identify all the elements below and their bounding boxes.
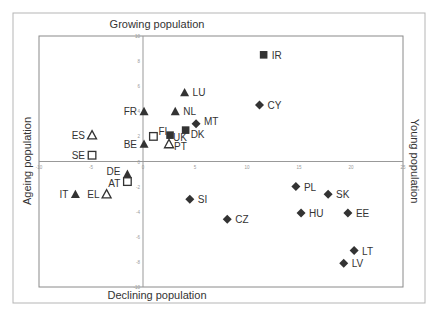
data-point-se: SE: [72, 150, 96, 161]
y-tick-label: -4: [136, 210, 140, 215]
point-label: HU: [309, 208, 323, 219]
label-right: Young population: [409, 119, 421, 204]
y-tick-label: -8: [136, 260, 140, 265]
label-top: Growing population: [110, 18, 205, 30]
square-marker-icon: [260, 51, 268, 59]
point-label: CY: [267, 100, 281, 111]
point-label: DK: [191, 129, 205, 140]
point-label: PL: [304, 182, 317, 193]
data-point-el: EL: [87, 189, 111, 200]
label-bottom: Declining population: [107, 289, 206, 301]
label-left: Ageing population: [21, 117, 33, 205]
point-label: MT: [204, 116, 218, 127]
x-tick-label: -10: [36, 165, 43, 170]
point-label: LT: [362, 246, 373, 257]
point-label: DE: [106, 166, 120, 177]
y-tick-label: -2: [136, 185, 140, 190]
scatter-chart: -10-50510152025-10-8-6-4-20246810 IRCYLU…: [0, 0, 438, 318]
square-marker-icon: [150, 133, 158, 141]
point-label: ES: [72, 130, 86, 141]
x-tick-label: 25: [400, 165, 406, 170]
point-label: SE: [72, 150, 86, 161]
point-label: EL: [87, 189, 100, 200]
x-tick-label: 15: [296, 165, 302, 170]
point-label: NL: [183, 106, 196, 117]
square-marker-icon: [88, 151, 96, 159]
x-tick-label: 20: [348, 165, 354, 170]
point-label: AT: [108, 178, 120, 189]
data-point-es: ES: [72, 130, 97, 141]
point-label: SI: [198, 194, 207, 205]
point-label: PT: [174, 141, 187, 152]
y-tick-label: 10: [135, 34, 141, 39]
point-label: BE: [124, 139, 138, 150]
point-label: SK: [336, 189, 350, 200]
x-tick-label: -5: [89, 165, 93, 170]
point-label: LV: [352, 258, 364, 269]
point-label: IT: [60, 189, 69, 200]
point-label: IR: [272, 50, 282, 61]
x-tick-label: 10: [244, 165, 250, 170]
point-label: LU: [193, 87, 206, 98]
point-label: FR: [124, 106, 137, 117]
y-tick-label: -6: [136, 235, 140, 240]
point-label: EE: [356, 208, 370, 219]
square-marker-icon: [124, 178, 132, 186]
point-label: FI: [158, 126, 167, 137]
point-label: CZ: [235, 214, 248, 225]
